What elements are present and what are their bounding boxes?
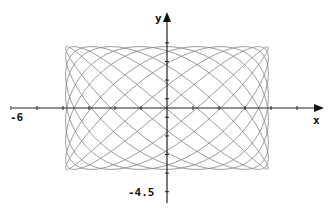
x-axis-label: x — [313, 114, 320, 127]
x-axis-arrow-icon — [314, 104, 324, 112]
axes — [11, 12, 324, 203]
x-min-tick-label: -6 — [10, 111, 24, 124]
y-axis-arrow-icon — [163, 12, 171, 22]
chart-canvas: x y -6 -4.5 — [0, 0, 332, 212]
y-axis-label: y — [155, 12, 162, 25]
y-min-tick-label: -4.5 — [128, 186, 155, 199]
plot-svg: x y -6 -4.5 — [0, 0, 332, 212]
